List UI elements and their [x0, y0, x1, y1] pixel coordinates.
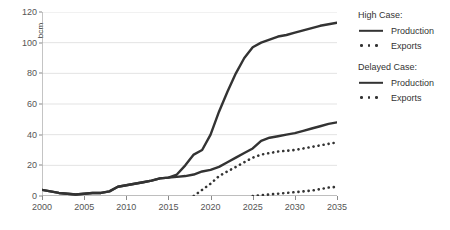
legend-dot [368, 44, 371, 47]
x-tick-mark [84, 196, 85, 200]
legend-group-title: High Case: [358, 10, 450, 20]
chart-legend: High Case:ProductionExportsDelayed Case:… [358, 10, 450, 105]
x-tick-mark [253, 196, 254, 200]
x-tick-label: 2005 [74, 202, 94, 212]
y-tick-label: 40 [27, 130, 37, 140]
x-tick-mark [295, 196, 296, 200]
y-tick-label: 100 [22, 38, 37, 48]
gridlines [42, 12, 337, 196]
solid-line-icon [358, 78, 384, 88]
dotted-line-icon [358, 41, 384, 51]
y-tick-label: 120 [22, 7, 37, 17]
x-tick-mark [126, 196, 127, 200]
x-tick-label: 2035 [327, 202, 347, 212]
x-tick-label: 2010 [116, 202, 136, 212]
legend-dot [375, 96, 378, 99]
legend-dot [360, 44, 363, 47]
legend-item[interactable]: Exports [358, 90, 450, 105]
y-tick-label: 20 [27, 160, 37, 170]
x-tick-label: 2030 [285, 202, 305, 212]
legend-item-label: Exports [391, 41, 422, 51]
legend-group-title: Delayed Case: [358, 62, 450, 72]
y-tick-label: 60 [27, 99, 37, 109]
plot-area: bcm 020406080100120 20002005201020152020… [42, 12, 337, 196]
x-tick-mark [42, 196, 43, 200]
plot-svg [42, 12, 337, 196]
y-tick-label: 80 [27, 68, 37, 78]
x-tick-mark [337, 196, 338, 200]
series-line-0 [42, 23, 337, 195]
legend-item-label: Production [391, 78, 434, 88]
x-tick-label: 2025 [243, 202, 263, 212]
legend-group: High Case:ProductionExports [358, 10, 450, 53]
solid-line-icon [358, 26, 384, 36]
legend-item[interactable]: Exports [358, 38, 450, 53]
legend-dot [375, 44, 378, 47]
dotted-line-icon [358, 93, 384, 103]
x-tick-mark [211, 196, 212, 200]
data-series-layer [42, 23, 337, 196]
legend-item-label: Exports [391, 93, 422, 103]
x-tick-mark [168, 196, 169, 200]
series-line-3 [253, 187, 337, 196]
chart-figure: bcm 020406080100120 20002005201020152020… [0, 0, 450, 230]
legend-dot [360, 96, 363, 99]
legend-item[interactable]: Production [358, 75, 450, 90]
legend-group: Delayed Case:ProductionExports [358, 62, 450, 105]
legend-item[interactable]: Production [358, 23, 450, 38]
legend-item-label: Production [391, 26, 434, 36]
x-tick-label: 2015 [158, 202, 178, 212]
x-tick-label: 2020 [201, 202, 221, 212]
y-tick-label: 0 [32, 191, 37, 201]
legend-dot [368, 96, 371, 99]
x-tick-label: 2000 [32, 202, 52, 212]
